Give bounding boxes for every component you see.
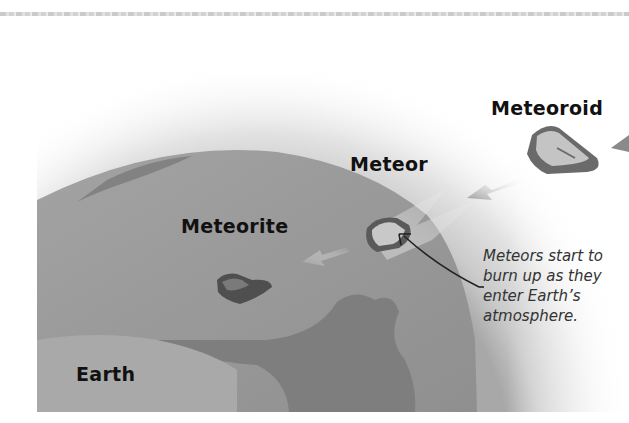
caption-line: atmosphere. [483,306,629,326]
meteor-diagram-scene [37,40,629,412]
caption-line: burn up as they [483,266,629,286]
caption-line: Meteors start to [483,246,629,266]
caption-line: enter Earth’s [483,286,629,306]
scan-bleed-through-line [0,12,629,16]
label-meteor: Meteor [350,153,428,175]
label-earth: Earth [76,363,135,385]
label-meteorite: Meteorite [181,215,288,237]
meteor-caption: Meteors start to burn up as they enter E… [483,246,629,326]
diagram-artwork [37,40,629,412]
label-meteoroid: Meteoroid [491,97,603,119]
